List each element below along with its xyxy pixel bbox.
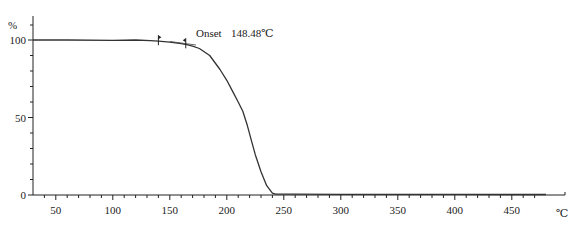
x-unit-label: ℃ <box>556 207 568 219</box>
x-tick-label: 100 <box>105 204 122 216</box>
y-tick-label: 0 <box>21 189 27 201</box>
x-tick-label: 150 <box>162 204 179 216</box>
tga-chart: 05010050100150200250300350400450 Onset 1… <box>0 0 575 226</box>
x-tick-label: 250 <box>276 204 293 216</box>
y-tick-label: 50 <box>15 112 27 124</box>
tick-marks <box>28 25 535 200</box>
x-tick-label: 400 <box>447 204 464 216</box>
onset-value: 148.48℃ <box>231 27 274 39</box>
marker-flag-icon <box>183 38 186 42</box>
tg-curve <box>33 40 546 195</box>
y-tick-label: 100 <box>10 34 27 46</box>
marker-flag-icon <box>158 35 161 39</box>
axes <box>33 16 565 195</box>
onset-label: Onset <box>196 27 222 39</box>
x-tick-label: 300 <box>333 204 350 216</box>
x-tick-label: 200 <box>219 204 236 216</box>
data-series <box>33 40 546 195</box>
x-tick-label: 50 <box>50 204 62 216</box>
tick-labels: 05010050100150200250300350400450 <box>10 34 521 216</box>
x-tick-label: 350 <box>390 204 407 216</box>
x-tick-label: 450 <box>504 204 521 216</box>
y-unit-label: % <box>8 19 17 31</box>
